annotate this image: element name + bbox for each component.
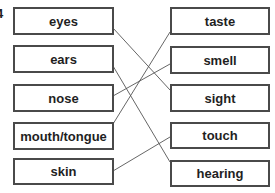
left-item-label: eyes <box>49 14 78 29</box>
right-item-label: taste <box>205 14 235 29</box>
right-item-label: hearing <box>197 166 244 181</box>
left-item-mouth-tongue[interactable]: mouth/tongue <box>13 122 114 150</box>
right-item-label: sight <box>204 91 235 106</box>
left-item-label: skin <box>50 164 76 179</box>
left-item-label: mouth/tongue <box>20 129 107 144</box>
right-item-hearing[interactable]: hearing <box>170 160 270 187</box>
right-item-smell[interactable]: smell <box>170 46 270 74</box>
left-item-label: ears <box>50 52 77 67</box>
left-item-nose[interactable]: nose <box>13 84 114 112</box>
left-item-label: nose <box>48 91 78 106</box>
right-item-label: touch <box>202 128 237 143</box>
left-item-eyes[interactable]: eyes <box>13 7 114 35</box>
left-item-skin[interactable]: skin <box>13 158 114 185</box>
right-item-sight[interactable]: sight <box>170 84 270 112</box>
line-mouth-taste <box>113 32 170 124</box>
right-item-label: smell <box>203 53 236 68</box>
line-skin-touch <box>113 137 170 171</box>
right-item-taste[interactable]: taste <box>170 7 270 35</box>
right-item-touch[interactable]: touch <box>170 122 270 149</box>
left-item-ears[interactable]: ears <box>13 45 114 73</box>
